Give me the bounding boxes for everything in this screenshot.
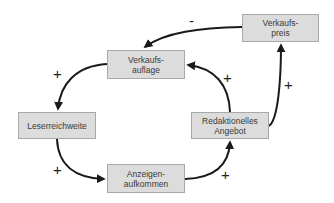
- arrow-redaktion-to-preis: [269, 45, 281, 126]
- arrow-auflage-to-leser: [58, 64, 107, 109]
- sign-preis-to-auflage: -: [189, 13, 194, 28]
- arrow-leser-to-anzeigen: [57, 139, 104, 179]
- sign-redaktion-to-preis: +: [284, 77, 293, 92]
- sign-anzeigen-to-redaktion: +: [221, 167, 230, 182]
- node-verkaufspreis: Verkaufs- preis: [242, 14, 319, 42]
- sign-leser-to-anzeigen: +: [53, 162, 62, 177]
- node-anzeigenaufkommen: Anzeigen- aufkommen: [107, 164, 185, 193]
- node-redaktionelles-angebot: Redaktionelles Angebot: [191, 112, 269, 139]
- arrow-preis-to-auflage: [145, 27, 242, 47]
- node-leserreichweite: Leserreichweite: [18, 112, 96, 139]
- sign-redaktion-to-auflage: +: [223, 70, 232, 85]
- node-verkaufsauflage: Verkaufs- auflage: [107, 50, 185, 79]
- sign-auflage-to-leser: +: [53, 66, 62, 81]
